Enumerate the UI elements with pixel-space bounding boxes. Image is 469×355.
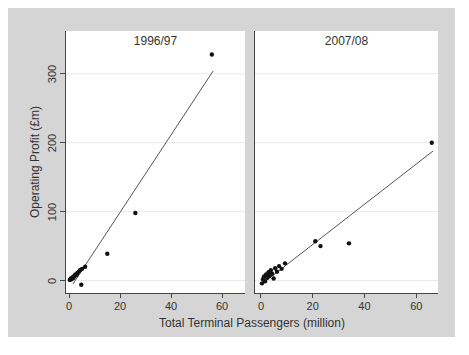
x-tick-mark [120, 294, 121, 298]
y-tick-label: 200 [46, 134, 58, 152]
data-point [279, 267, 283, 271]
y-axis-label: Operating Profit (£m) [28, 106, 42, 218]
panel-1996-97: 1996/97 [65, 31, 245, 294]
x-tick-label: 0 [258, 300, 264, 312]
x-tick-mark [171, 294, 172, 298]
data-point [430, 140, 434, 144]
y-tick-label: 100 [46, 202, 58, 220]
trend-line [73, 71, 213, 284]
figure-canvas: Operating Profit (£m) 1996/97 2007/08 To… [8, 8, 455, 337]
x-tick-mark [260, 294, 261, 298]
data-point [313, 239, 317, 243]
data-point [133, 211, 137, 215]
y-tick-mark [60, 211, 65, 212]
panel-title: 2007/08 [255, 34, 438, 48]
page-background: Operating Profit (£m) 1996/97 2007/08 To… [0, 0, 469, 355]
panel-title: 1996/97 [66, 34, 245, 48]
scatter-plot-2007-08 [255, 31, 438, 293]
y-tick-label: 300 [46, 65, 58, 83]
x-tick-mark [312, 294, 313, 298]
x-tick-mark [69, 294, 70, 298]
y-tick-label: 0 [46, 278, 58, 284]
panel-2007-08: 2007/08 [254, 31, 438, 294]
data-point [271, 276, 275, 280]
data-point [83, 265, 87, 269]
data-point [105, 252, 109, 256]
data-point [318, 244, 322, 248]
x-tick-mark [364, 294, 365, 298]
data-point [347, 241, 351, 245]
scatter-plot-1996-97 [66, 31, 245, 293]
x-tick-label: 20 [114, 300, 126, 312]
x-tick-mark [416, 294, 417, 298]
x-tick-label: 60 [216, 300, 228, 312]
y-tick-mark [60, 73, 65, 74]
x-tick-label: 0 [66, 300, 72, 312]
data-point [275, 269, 279, 273]
x-tick-label: 40 [165, 300, 177, 312]
x-axis-label: Total Terminal Passengers (million) [66, 316, 438, 330]
y-tick-mark [60, 142, 65, 143]
y-tick-mark [60, 280, 65, 281]
data-point [210, 52, 214, 56]
data-point [79, 283, 83, 287]
data-point [283, 261, 287, 265]
x-tick-label: 60 [410, 300, 422, 312]
data-point [270, 271, 274, 275]
x-tick-mark [222, 294, 223, 298]
x-tick-label: 20 [307, 300, 319, 312]
x-tick-label: 40 [358, 300, 370, 312]
